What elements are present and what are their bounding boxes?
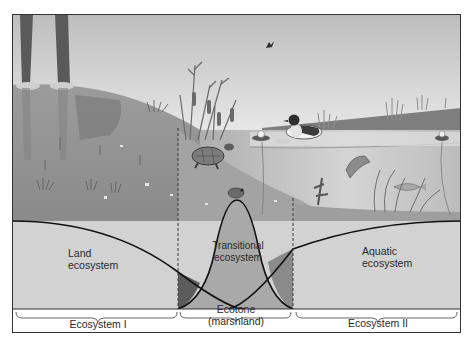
label-line: Land (68, 247, 118, 259)
ecotone-diagram: Land ecosystem Transitional ecosystem Aq… (0, 0, 473, 339)
frog-icon (228, 188, 244, 198)
label-ecotone: Ecotone (marshland) (196, 303, 276, 327)
label-line: Transitional (203, 240, 273, 252)
label-line: ecosystem (68, 259, 118, 271)
label-line: ecosystem (203, 252, 273, 264)
label-line: Ecosystem I (48, 318, 148, 330)
label-line: Aquatic (362, 245, 412, 257)
label-line: Ecotone (196, 303, 276, 315)
label-ecosystem-1: Ecosystem I (48, 309, 148, 330)
label-land-ecosystem: Land ecosystem (68, 247, 118, 271)
label-line: (marshland) (196, 315, 276, 327)
label-aquatic-ecosystem: Aquatic ecosystem (362, 245, 412, 269)
label-transitional-ecosystem: Transitional ecosystem (203, 240, 273, 264)
label-line: ecosystem (362, 257, 412, 269)
label-line: Ecosystem II (328, 317, 428, 329)
diagram-canvas (0, 0, 473, 339)
label-ecosystem-2: Ecosystem II (328, 309, 428, 329)
